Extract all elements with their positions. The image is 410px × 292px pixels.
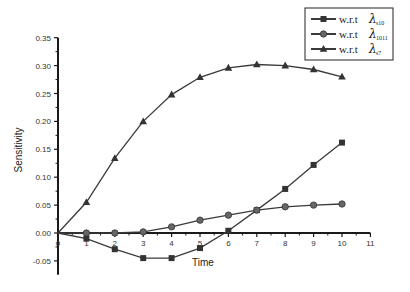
- circle-marker-icon: [339, 201, 345, 207]
- legend-subscript: 1011: [376, 35, 388, 41]
- series-circle: [58, 201, 345, 236]
- x-axis: 01234567891011: [56, 233, 375, 248]
- y-tick-label: -0.05: [33, 257, 52, 266]
- circle-marker-icon: [83, 230, 89, 236]
- circle-marker-icon: [112, 230, 118, 236]
- legend-label: w.r.t: [339, 43, 358, 55]
- circle-marker-icon: [320, 31, 326, 37]
- y-axis: 0.350.300.250.200.150.100.050.00-0.05: [33, 34, 58, 275]
- square-marker-icon: [140, 255, 146, 261]
- y-tick-label: 0.15: [35, 145, 51, 154]
- y-tick-label: 0.05: [35, 201, 51, 210]
- legend: w.r.tλs10w.r.tλ1011w.r.tλs7: [305, 8, 393, 60]
- x-tick-label: 7: [255, 239, 260, 248]
- square-marker-icon: [311, 162, 317, 168]
- circle-marker-icon: [168, 224, 174, 230]
- square-marker-icon: [197, 245, 203, 251]
- y-tick-label: 0.20: [35, 117, 51, 126]
- legend-subscript: s7: [376, 50, 381, 56]
- circle-marker-icon: [310, 202, 316, 208]
- y-axis-title: Sensitivity: [13, 127, 24, 172]
- y-tick-label: 0.25: [35, 90, 51, 99]
- y-tick-label: 0.10: [35, 173, 51, 182]
- y-tick-label: 0.35: [35, 34, 51, 43]
- x-tick-label: 8: [283, 239, 288, 248]
- legend-label: w.r.t: [339, 28, 358, 40]
- triangle-marker-icon: [168, 91, 176, 98]
- series-triangle: [58, 60, 346, 233]
- circle-marker-icon: [140, 229, 146, 235]
- x-tick-label: 6: [226, 239, 231, 248]
- square-marker-icon: [321, 16, 327, 22]
- y-tick-label: 0.00: [35, 229, 51, 238]
- sensitivity-chart: 0.350.300.250.200.150.100.050.00-0.05 01…: [0, 0, 410, 292]
- x-tick-label: 0: [56, 239, 61, 248]
- circle-marker-icon: [282, 204, 288, 210]
- x-tick-label: 9: [311, 239, 316, 248]
- square-marker-icon: [169, 255, 175, 261]
- x-tick-label: 10: [338, 239, 347, 248]
- circle-marker-icon: [254, 207, 260, 213]
- square-marker-icon: [225, 228, 231, 234]
- x-tick-label: 11: [366, 239, 375, 248]
- circle-marker-icon: [225, 212, 231, 218]
- series-line: [58, 64, 342, 233]
- x-tick-label: 3: [141, 239, 146, 248]
- legend-label: w.r.t: [339, 13, 358, 25]
- square-marker-icon: [282, 186, 288, 192]
- x-tick-label: 4: [169, 239, 174, 248]
- square-marker-icon: [339, 140, 345, 146]
- legend-subscript: s10: [376, 20, 384, 26]
- series-layer: [58, 60, 346, 261]
- circle-marker-icon: [197, 217, 203, 223]
- square-marker-icon: [112, 246, 118, 252]
- y-tick-label: 0.30: [35, 62, 51, 71]
- x-axis-title: Time: [192, 257, 214, 268]
- triangle-marker-icon: [253, 60, 261, 67]
